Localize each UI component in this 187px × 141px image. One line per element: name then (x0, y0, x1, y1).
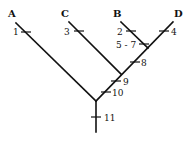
taxon-b-label: B (113, 8, 121, 19)
char-2-label: 2 (117, 27, 123, 37)
char-5-7-label: 5 - 7 (116, 40, 136, 50)
char-4-label: 4 (171, 27, 177, 37)
branch-a (16, 23, 96, 101)
taxon-d-label: D (174, 8, 183, 19)
char-11-label: 11 (104, 113, 115, 123)
char-8-label: 8 (141, 58, 147, 68)
char-1-label: 1 (13, 27, 19, 37)
char-9-label: 9 (123, 77, 129, 87)
taxon-a-label: A (7, 8, 16, 19)
char-10-label: 10 (112, 88, 124, 98)
char-3-label: 3 (64, 27, 70, 37)
taxon-c-label: C (61, 8, 69, 19)
cladogram: A C B D 1 3 2 5 - 7 4 8 9 10 11 (0, 0, 187, 141)
branch-c (69, 22, 121, 74)
